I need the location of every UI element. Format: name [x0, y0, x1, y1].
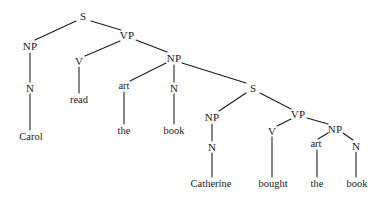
- tree-node-leaf-book-1: book: [164, 126, 185, 137]
- tree-node-n-subj: N: [26, 83, 34, 94]
- tree-node-leaf-the-1: the: [118, 126, 131, 137]
- tree-node-np-obj: NP: [167, 53, 181, 64]
- tree-node-np-rel-obj: NP: [328, 124, 342, 135]
- tree-node-v-main: V: [75, 56, 83, 67]
- tree-node-art-rel: art: [310, 139, 321, 150]
- syntax-tree-figure: SNPNCarolVPVreadNParttheNbookSNPNCatheri…: [0, 0, 386, 200]
- tree-node-leaf-cath: Catherine: [191, 179, 232, 190]
- tree-node-np-subj: NP: [23, 41, 37, 52]
- tree-node-vp-main: VP: [120, 30, 134, 41]
- tree-node-layer: SNPNCarolVPVreadNParttheNbookSNPNCatheri…: [0, 0, 386, 200]
- tree-node-art-obj: art: [118, 81, 129, 92]
- tree-node-s-rel: S: [250, 83, 256, 94]
- tree-node-np-rel-subj: NP: [205, 112, 219, 123]
- tree-node-vp-rel: VP: [291, 109, 305, 120]
- tree-node-v-rel: V: [268, 126, 276, 137]
- tree-node-s-top: S: [80, 11, 86, 22]
- tree-node-n-rel-obj: N: [352, 141, 360, 152]
- tree-node-leaf-book-2: book: [347, 179, 368, 190]
- tree-node-leaf-the-2: the: [311, 179, 324, 190]
- tree-node-leaf-read: read: [70, 95, 88, 106]
- tree-node-n-obj: N: [170, 83, 178, 94]
- tree-node-leaf-carol: Carol: [19, 132, 42, 143]
- tree-node-n-rel-subj: N: [208, 142, 216, 153]
- tree-node-leaf-bought: bought: [258, 179, 287, 190]
